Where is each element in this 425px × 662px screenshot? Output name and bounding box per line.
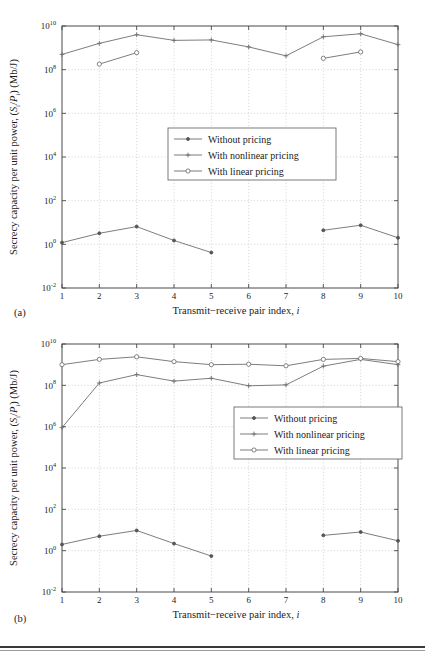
data-point-marker: [359, 224, 362, 227]
x-tick-label: 3: [134, 595, 139, 605]
data-point-marker: [135, 225, 138, 228]
y-axis-title: Secrecy capacity per unit power, (Si/Pi)…: [8, 59, 21, 255]
legend-label[interactable]: Without pricing: [208, 134, 271, 145]
y-tick-label: 108: [44, 63, 56, 75]
series-with-linear-pricing: [97, 50, 363, 66]
x-tick-label: 9: [358, 595, 363, 605]
data-point-marker: [210, 251, 213, 254]
chart-legend: Without pricingWith nonlinear pricingWit…: [234, 407, 402, 459]
x-tick-label: 4: [172, 291, 177, 301]
x-tick-label: 9: [358, 291, 363, 301]
data-point-marker: [396, 360, 400, 364]
data-point-marker: [172, 360, 176, 364]
chart-legend: Without pricingWith nonlinear pricingWit…: [168, 128, 336, 180]
data-point-marker: [135, 51, 139, 55]
y-tick-label: 10-2: [42, 585, 56, 597]
series-without-pricing: [61, 529, 400, 558]
data-point-marker: [97, 62, 101, 66]
data-point-marker: [61, 241, 64, 244]
x-tick-label: 6: [246, 291, 251, 301]
data-point-marker: [61, 543, 64, 546]
x-tick-label: 5: [209, 595, 214, 605]
x-tick-label: 8: [321, 291, 326, 301]
data-point-marker: [253, 417, 256, 420]
x-tick-label: 5: [209, 291, 214, 301]
data-point-marker: [60, 363, 64, 367]
data-point-marker: [186, 169, 190, 173]
legend-label[interactable]: With nonlinear pricing: [208, 150, 299, 161]
chart-a-canvas: 10-2100102104106108101012345678910Transm…: [0, 0, 425, 330]
footer-rule-thin: [0, 650, 425, 651]
data-point-marker: [135, 529, 138, 532]
x-tick-label: 4: [172, 595, 177, 605]
data-point-marker: [397, 236, 400, 239]
y-tick-label: 1010: [41, 19, 56, 31]
x-tick-label: 3: [134, 291, 139, 301]
figure-panel-b: 10-2100102104106108101012345678910Transm…: [0, 330, 425, 635]
panel-a-tag: (a): [14, 307, 26, 318]
x-tick-label: 7: [284, 595, 289, 605]
series-path: [323, 52, 360, 58]
data-point-marker: [359, 356, 363, 360]
panel-b-tag: (b): [14, 613, 26, 624]
data-point-marker: [284, 364, 288, 368]
legend-label[interactable]: Without pricing: [274, 413, 337, 424]
data-point-marker: [359, 531, 362, 534]
data-point-marker: [98, 535, 101, 538]
series-path: [99, 53, 136, 64]
footer-rule: [0, 646, 425, 648]
legend-label[interactable]: With nonlinear pricing: [274, 429, 365, 440]
y-tick-label: 108: [44, 378, 56, 390]
figure-panel-a: 10-2100102104106108101012345678910Transm…: [0, 0, 425, 330]
data-point-marker: [252, 448, 256, 452]
series-path: [62, 227, 211, 253]
series-without-pricing: [61, 224, 400, 254]
y-tick-label: 106: [44, 106, 56, 118]
y-tick-label: 100: [44, 544, 56, 556]
chart-b-canvas: 10-2100102104106108101012345678910Transm…: [0, 330, 425, 635]
data-point-marker: [247, 362, 251, 366]
y-tick-label: 102: [44, 194, 56, 206]
x-tick-label: 1: [60, 595, 65, 605]
x-tick-label: 6: [246, 595, 251, 605]
x-tick-label: 2: [97, 595, 102, 605]
legend-label[interactable]: With linear pricing: [274, 445, 350, 456]
legend-label[interactable]: With linear pricing: [208, 166, 284, 177]
x-tick-label: 10: [394, 595, 404, 605]
data-point-marker: [209, 363, 213, 367]
x-tick-label: 2: [97, 291, 102, 301]
y-tick-label: 104: [44, 461, 56, 473]
data-point-marker: [322, 534, 325, 537]
data-point-marker: [173, 239, 176, 242]
y-tick-label: 1010: [41, 337, 56, 349]
x-tick-label: 7: [284, 291, 289, 301]
data-point-marker: [321, 357, 325, 361]
data-point-marker: [321, 56, 325, 60]
x-axis-title: Transmit−receive pair index, i: [173, 305, 300, 316]
y-tick-label: 106: [44, 420, 56, 432]
y-tick-label: 104: [44, 150, 56, 162]
data-point-marker: [98, 232, 101, 235]
data-point-marker: [322, 229, 325, 232]
series-path: [62, 34, 398, 56]
data-point-marker: [359, 50, 363, 54]
y-tick-label: 10-2: [42, 281, 56, 293]
x-axis-title: Transmit−receive pair index, i: [173, 609, 300, 620]
y-tick-label: 102: [44, 502, 56, 514]
x-tick-label: 8: [321, 595, 326, 605]
x-tick-label: 1: [60, 291, 65, 301]
data-point-marker: [187, 138, 190, 141]
y-tick-label: 100: [44, 237, 56, 249]
data-point-marker: [135, 355, 139, 359]
data-point-marker: [210, 555, 213, 558]
y-axis-title: Secrecy capacity per unit power, (Si/Pi)…: [8, 370, 21, 566]
data-point-marker: [397, 539, 400, 542]
data-point-marker: [97, 357, 101, 361]
data-point-marker: [173, 542, 176, 545]
x-tick-label: 10: [394, 291, 404, 301]
